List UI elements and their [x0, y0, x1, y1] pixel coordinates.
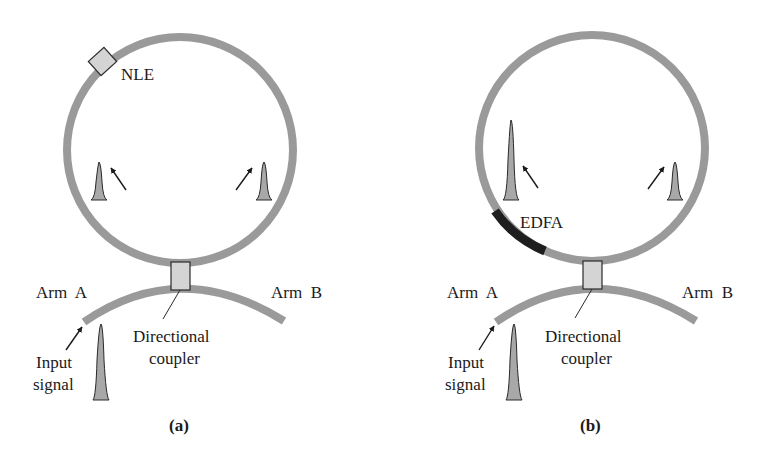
pulse-right	[667, 162, 683, 200]
panel-b: EDFA Arm A Arm B Input signal Directiona…	[445, 35, 733, 435]
edfa-label: EDFA	[520, 213, 564, 232]
coupler-label-line1: Directional	[133, 327, 210, 346]
bus-fiber	[496, 289, 696, 322]
input-label-line2: signal	[445, 375, 486, 394]
arrow-ccw-icon	[523, 166, 538, 188]
coupler-label-line1: Directional	[545, 327, 622, 346]
caption-a: (a)	[169, 416, 189, 435]
nle-label: NLE	[121, 65, 154, 84]
input-arrow-icon	[479, 326, 494, 350]
input-label-line2: signal	[33, 375, 74, 394]
pulse-left-amplified	[503, 120, 519, 200]
input-arrow-icon	[66, 327, 82, 350]
input-pulse	[506, 324, 522, 400]
coupler-leader-line	[163, 290, 180, 319]
pulse-right	[256, 162, 272, 200]
input-label-line1: Input	[448, 353, 484, 372]
arm-a-label: Arm A	[447, 283, 499, 302]
caption-b: (b)	[580, 416, 601, 435]
arrow-cw-icon	[648, 167, 664, 189]
bus-fiber	[84, 289, 284, 322]
arrow-cw-icon	[236, 168, 252, 190]
arrow-ccw-icon	[111, 168, 126, 190]
input-pulse	[93, 324, 109, 400]
input-label-line1: Input	[36, 353, 72, 372]
pulse-left	[91, 162, 107, 200]
figure-canvas: NLE Arm A Arm B Input signal Directional…	[0, 0, 777, 458]
coupler-label-line2: coupler	[149, 349, 200, 368]
arm-b-label: Arm B	[682, 283, 733, 302]
arm-a-label: Arm A	[36, 283, 88, 302]
nle-component	[88, 47, 116, 75]
arm-b-label: Arm B	[271, 283, 322, 302]
directional-coupler	[171, 262, 190, 290]
coupler-label-line2: coupler	[561, 349, 612, 368]
directional-coupler	[583, 261, 602, 289]
panel-a: NLE Arm A Arm B Input signal Directional…	[33, 37, 322, 435]
